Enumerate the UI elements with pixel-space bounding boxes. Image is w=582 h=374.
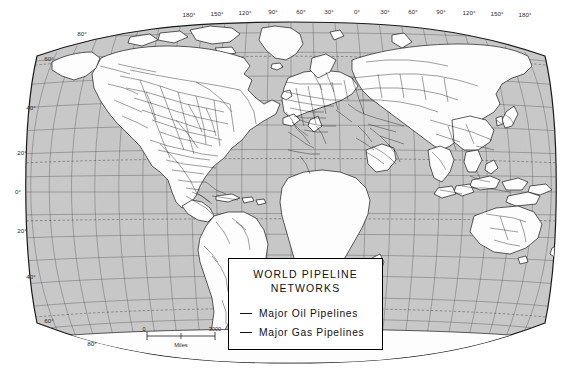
- lat-label: 80°: [87, 340, 97, 347]
- legend-title: WORLD PIPELINE NETWORKS: [229, 259, 382, 295]
- lon-label: 90°: [436, 8, 446, 15]
- scale-start-label: 0: [142, 326, 145, 332]
- oil-pipeline-line-swatch-icon: [240, 313, 252, 314]
- lat-label: 60°: [44, 55, 54, 62]
- lat-label: 40°: [26, 273, 36, 280]
- lat-label: 0°: [15, 188, 21, 195]
- legend-entry-oil-label: Major Oil Pipelines: [259, 308, 358, 319]
- lat-label: 20°: [17, 149, 27, 156]
- legend-entries: Major Oil Pipelines Major Gas Pipelines: [229, 304, 382, 342]
- lat-label: 60°: [44, 317, 54, 324]
- gas-pipeline-line-swatch-icon: [240, 332, 252, 333]
- lon-label: 150°: [211, 10, 224, 17]
- lon-label: 60°: [296, 8, 306, 15]
- lon-label: 180°: [519, 11, 532, 18]
- legend-entry-gas: Major Gas Pipelines: [240, 323, 382, 342]
- legend-title-line-2: NETWORKS: [229, 281, 382, 295]
- lon-label: 120°: [239, 9, 252, 16]
- lon-label: 180°: [183, 11, 196, 18]
- lat-label: 40°: [26, 104, 36, 111]
- lon-label: 60°: [408, 8, 418, 15]
- scale-unit-label: Miles: [174, 342, 188, 348]
- legend-entry-oil: Major Oil Pipelines: [240, 304, 382, 323]
- legend-title-line-1: WORLD PIPELINE: [229, 267, 382, 281]
- world-pipeline-map-figure: 180° 150° 120° 90° 60° 30° 0° 30° 60° 90…: [0, 0, 582, 374]
- lon-label: 150°: [491, 10, 504, 17]
- lon-label: 120°: [463, 9, 476, 16]
- lon-label: 30°: [380, 8, 390, 15]
- lon-label: 30°: [324, 8, 334, 15]
- map-legend: WORLD PIPELINE NETWORKS Major Oil Pipeli…: [228, 258, 383, 350]
- lon-label: 0°: [354, 8, 360, 15]
- lat-label: 80°: [77, 30, 87, 37]
- scale-end-label: 3000: [209, 326, 221, 332]
- longitude-tick-labels: 180° 150° 120° 90° 60° 30° 0° 30° 60° 90…: [183, 8, 532, 18]
- lon-label: 90°: [268, 8, 278, 15]
- lat-label: 20°: [17, 227, 27, 234]
- legend-entry-gas-label: Major Gas Pipelines: [259, 327, 364, 338]
